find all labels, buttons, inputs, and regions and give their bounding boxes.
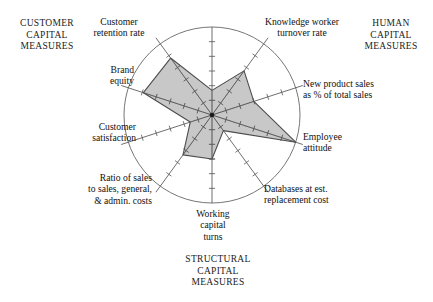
axis-label-customer-retention-rate: Customer retention rate [76, 16, 162, 39]
axis-leader-line [296, 142, 303, 144]
axis-label-customer-satisfaction: Customer satisfaction [38, 121, 136, 144]
center-point [210, 113, 215, 118]
axis-label-knowledge-worker-turnover-rate: Knowledge worker turnover rate [250, 16, 354, 39]
axis-leader-line [264, 38, 268, 44]
axis-label-new-product-sales: New product sales as % of total sales [303, 78, 423, 101]
axis-label-working-capital-turns: Working capital turns [170, 208, 256, 242]
axis-label-employee-attitude: Employee attitude [303, 131, 395, 154]
group-label-human-capital: HUMAN CAPITAL MEASURES [352, 18, 430, 53]
group-label-structural-capital: STRUCTURAL CAPITAL MEASURES [152, 254, 284, 289]
axis-leader-line [296, 85, 303, 87]
axis-label-brand-equity: Brand equity [58, 64, 134, 87]
axis-label-databases-replacement-cost: Databases at est. replacement cost [264, 183, 380, 206]
axis-leader-line [156, 38, 160, 44]
axis-leader-line [156, 186, 160, 192]
axis-label-ratio-of-sales: Ratio of sales to sales, general, & admi… [48, 172, 152, 206]
figure-canvas: CUSTOMER CAPITAL MEASURES HUMAN CAPITAL … [0, 0, 433, 302]
